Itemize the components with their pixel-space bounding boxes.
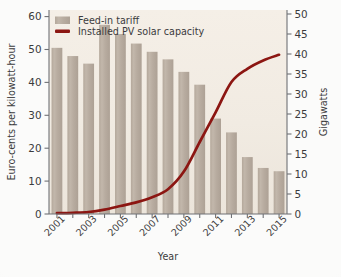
legend-swatch-feed-in-tariff <box>55 17 70 25</box>
right-tick-label-15: 15 <box>295 148 308 160</box>
legend-label-feed-in-tariff: Feed-in tariff <box>78 15 139 26</box>
bar-2011 <box>210 119 221 214</box>
chart-figure: 0102030405060 05101520253035404550 20012… <box>0 0 341 277</box>
left-axis-ticks: 0102030405060 <box>28 10 49 219</box>
bar-2014 <box>258 168 269 214</box>
bar-2004 <box>99 25 110 214</box>
x-tick-label-2007: 2007 <box>137 213 162 238</box>
x-tick-label-2009: 2009 <box>169 213 194 238</box>
left-tick-label-60: 60 <box>28 10 41 22</box>
legend-label-installed-pv-capacity: Installed PV solar capacity <box>78 26 205 37</box>
bar-2012 <box>226 132 237 214</box>
left-tick-label-10: 10 <box>28 175 41 187</box>
right-tick-label-30: 30 <box>295 88 308 100</box>
left-tick-label-20: 20 <box>28 142 41 154</box>
left-tick-label-30: 30 <box>28 109 41 121</box>
right-axis-ticks: 05101520253035404550 <box>287 8 308 220</box>
right-tick-label-35: 35 <box>295 68 308 80</box>
x-axis-title: Year <box>157 251 178 262</box>
solar-tariff-capacity-chart: 0102030405060 05101520253035404550 20012… <box>0 0 341 277</box>
right-tick-label-45: 45 <box>295 28 308 40</box>
bar-2003 <box>83 64 94 214</box>
right-tick-label-5: 5 <box>295 188 302 200</box>
bar-2002 <box>67 56 78 214</box>
x-tick-label-2015: 2015 <box>264 213 289 238</box>
right-tick-label-20: 20 <box>295 128 308 140</box>
left-tick-label-0: 0 <box>35 208 42 220</box>
x-tick-label-2001: 2001 <box>42 213 67 238</box>
bar-2009 <box>178 72 189 214</box>
left-tick-label-50: 50 <box>28 43 41 55</box>
left-tick-label-40: 40 <box>28 76 41 88</box>
right-tick-label-25: 25 <box>295 108 308 120</box>
legend-swatch-installed-pv-capacity <box>55 30 70 33</box>
right-tick-label-10: 10 <box>295 168 308 180</box>
left-axis-title: Euro-cents per kilowatt-hour <box>6 44 17 181</box>
x-tick-label-2013: 2013 <box>232 213 257 238</box>
bar-2005 <box>115 34 126 214</box>
right-tick-label-50: 50 <box>295 8 308 20</box>
bar-2013 <box>242 157 253 214</box>
bar-2006 <box>131 44 142 214</box>
bar-2015 <box>274 171 285 214</box>
x-tick-label-2003: 2003 <box>74 213 99 238</box>
x-tick-label-2011: 2011 <box>201 213 226 238</box>
x-tick-label-2005: 2005 <box>105 213 130 238</box>
bar-2007 <box>147 52 158 214</box>
right-tick-label-40: 40 <box>295 48 308 60</box>
x-axis-ticks: 20012003200520072009201120132015 <box>42 213 289 238</box>
right-tick-label-0: 0 <box>295 208 302 220</box>
right-axis-title: Gigawatts <box>318 88 329 136</box>
bar-2001 <box>52 48 63 214</box>
